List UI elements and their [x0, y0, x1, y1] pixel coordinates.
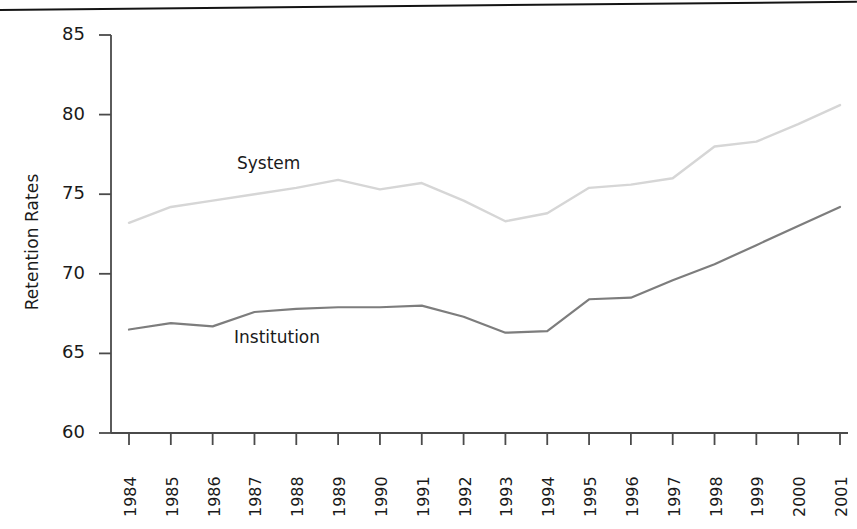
x-tick-label: 1993: [497, 447, 516, 517]
x-tick-label: 1987: [246, 447, 265, 517]
data-series-lines: [129, 105, 840, 333]
series-line-system: [129, 105, 840, 223]
y-tick-label: 80: [39, 103, 85, 124]
x-tick-label: 1988: [288, 447, 307, 517]
x-tick-label: 1990: [372, 447, 391, 517]
axis-lines: [99, 35, 848, 445]
x-tick-label: 2000: [790, 447, 809, 517]
y-axis-title: Retention Rates: [22, 132, 42, 352]
x-tick-label: 1992: [456, 447, 475, 517]
x-tick-label: 1995: [581, 447, 600, 517]
x-tick-label: 1999: [748, 447, 767, 517]
y-tick-label: 75: [39, 182, 85, 203]
x-tick-label: 1986: [205, 447, 224, 517]
y-tick-label: 70: [39, 262, 85, 283]
x-tick-label: 1998: [707, 447, 726, 517]
x-tick-label: 1989: [330, 447, 349, 517]
y-tick-label: 65: [39, 341, 85, 362]
y-tick-label: 60: [39, 421, 85, 442]
series-line-institution: [129, 207, 840, 333]
x-tick-label: 1997: [665, 447, 684, 517]
series-label-system: System: [237, 153, 300, 173]
x-tick-label: 1985: [163, 447, 182, 517]
series-label-institution: Institution: [234, 327, 320, 347]
x-tick-label: 1984: [121, 447, 140, 517]
y-tick-label: 85: [39, 23, 85, 44]
x-tick-label: 1996: [623, 447, 642, 517]
x-tick-label: 1994: [539, 447, 558, 517]
x-tick-label: 1991: [414, 447, 433, 517]
retention-rates-chart: Retention Rates 858075706560 19841985198…: [0, 0, 857, 529]
x-tick-label: 2001: [832, 447, 851, 517]
